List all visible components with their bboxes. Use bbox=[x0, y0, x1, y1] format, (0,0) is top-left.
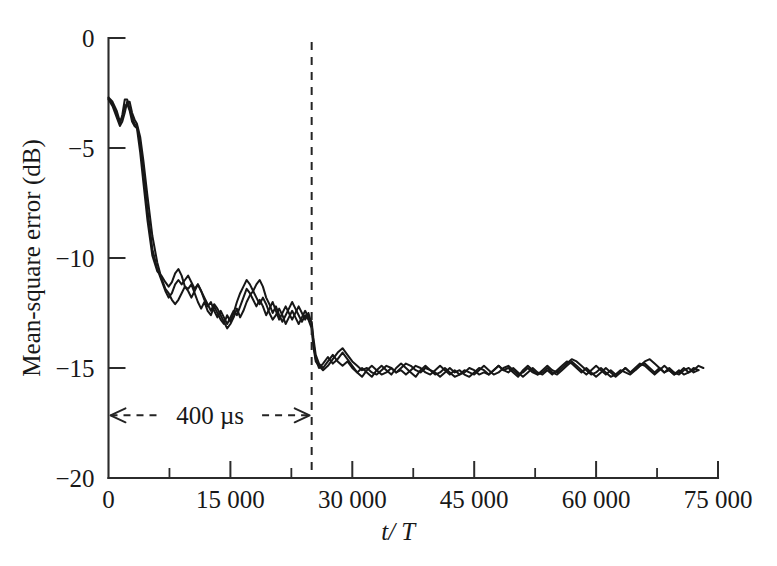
y-tick-label-0: 0 bbox=[82, 25, 95, 52]
x-tick-label-60000: 60 000 bbox=[562, 486, 631, 513]
y-tick-label--10: −10 bbox=[55, 245, 94, 272]
x-tick-label-0: 0 bbox=[102, 486, 115, 513]
x-axis-title: t/ T bbox=[381, 518, 417, 545]
x-tick-label-45000: 45 000 bbox=[440, 486, 509, 513]
data-series-group bbox=[109, 97, 704, 376]
x-tick-label-15000: 15 000 bbox=[196, 486, 265, 513]
y-axis-title: Mean-square error (dB) bbox=[18, 139, 46, 376]
mse-convergence-chart: 400 µs 0−5−10−15−20015 00030 00045 00060… bbox=[0, 0, 777, 566]
figure-container: 400 µs 0−5−10−15−20015 00030 00045 00060… bbox=[0, 0, 777, 566]
x-tick-label-30000: 30 000 bbox=[318, 486, 387, 513]
x-tick-label-75000: 75 000 bbox=[684, 486, 753, 513]
annotations-group: 400 µs bbox=[111, 42, 312, 476]
series-run-3 bbox=[109, 100, 699, 377]
y-tick-label--15: −15 bbox=[55, 355, 94, 382]
annotation-label-training-interval: 400 µs bbox=[176, 402, 244, 429]
y-tick-label--5: −5 bbox=[68, 135, 95, 162]
series-run-2 bbox=[109, 99, 699, 377]
y-tick-label--20: −20 bbox=[55, 465, 94, 492]
series-run-1 bbox=[109, 97, 704, 376]
